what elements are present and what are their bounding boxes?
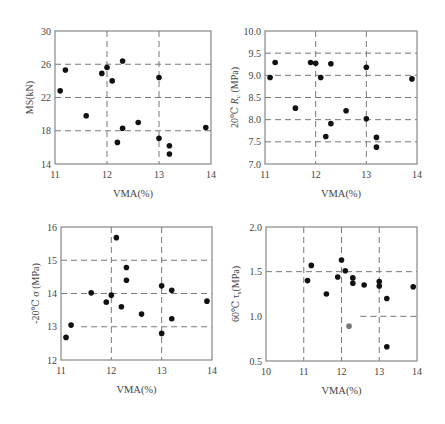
data-point (167, 143, 173, 149)
y-tick-labels: 0.51.01.52.0 (250, 222, 263, 367)
y-tick-label: 8.0 (249, 114, 262, 125)
data-point (135, 120, 141, 126)
data-points (63, 235, 210, 340)
x-tick-label: 14 (207, 365, 217, 376)
data-point (293, 105, 299, 111)
x-tick-label: 12 (106, 365, 116, 376)
y-tick-label: 10.0 (244, 26, 262, 37)
data-point (318, 75, 324, 81)
x-axis-label: VMA(%) (321, 188, 362, 200)
data-point (99, 71, 105, 77)
data-point (104, 65, 110, 71)
x-tick-labels: 1011121314 (261, 366, 422, 377)
x-tick-label: 14 (412, 366, 422, 377)
y-tick-labels: 1213141516 (47, 222, 57, 366)
y-tick-label: 14 (41, 159, 51, 170)
y-axis-label: 60℃ τs(MPa) (230, 266, 243, 322)
x-tick-label: 11 (50, 169, 60, 180)
x-tick-label: 11 (260, 169, 270, 180)
data-point (159, 331, 165, 337)
y-tick-label: 1.5 (250, 266, 263, 277)
x-axis-label: VMA(%) (116, 384, 157, 396)
data-point (305, 278, 311, 284)
data-point (364, 65, 370, 71)
y-tick-label: 16 (47, 222, 57, 233)
data-point (114, 235, 120, 241)
data-point (409, 76, 415, 82)
data-point (309, 263, 315, 269)
y-axis-label: MS(kN) (24, 81, 36, 114)
data-point (350, 280, 356, 286)
data-point (384, 344, 390, 350)
y-axis-label: 20℃ Rc (MPa) (229, 67, 242, 128)
data-points (267, 60, 414, 150)
data-point (120, 125, 126, 131)
x-axis-label: VMA(%) (113, 188, 154, 200)
data-point (109, 292, 115, 298)
y-tick-label: 26 (41, 59, 51, 70)
data-point (115, 140, 121, 146)
x-tick-label: 11 (56, 365, 66, 376)
data-point (124, 265, 130, 271)
data-point (308, 60, 314, 66)
x-tick-labels: 11121314 (260, 169, 422, 180)
y-tick-labels: 1418222630 (41, 26, 51, 170)
data-point (410, 284, 416, 290)
data-point (374, 135, 380, 141)
data-point (156, 75, 162, 81)
x-tick-label: 13 (154, 169, 164, 180)
data-points (57, 58, 208, 157)
x-tick-label: 12 (102, 169, 112, 180)
data-point (313, 61, 319, 67)
data-point (272, 60, 278, 66)
data-point (374, 144, 380, 150)
chart-sigma: 11121314 1213141516 VMA(%) -20℃ σ (MPa) (30, 222, 217, 397)
y-tick-label: 22 (41, 92, 51, 103)
data-point (324, 291, 330, 297)
data-point (139, 311, 145, 317)
data-point (343, 108, 349, 114)
data-point (63, 335, 69, 341)
data-point (384, 296, 390, 302)
data-point (203, 125, 209, 131)
data-point (335, 274, 341, 280)
data-point (120, 58, 126, 64)
data-points (305, 257, 416, 349)
data-point (57, 88, 63, 94)
figure-canvas: 11121314 1418222630 VMA(%) MS(kN) 111213… (0, 0, 445, 424)
chart-tau: 1011121314 0.51.01.52.0 VMA(%) 60℃ τs(MP… (230, 222, 422, 398)
y-axis-label: -20℃ σ (MPa) (30, 263, 42, 323)
x-tick-label: 14 (206, 169, 216, 180)
data-point (119, 304, 125, 310)
data-point (339, 257, 345, 263)
y-tick-label: 7.5 (249, 136, 262, 147)
data-point (267, 75, 273, 81)
x-tick-label: 10 (261, 366, 271, 377)
x-tick-labels: 11121314 (56, 365, 217, 376)
data-point (323, 134, 329, 140)
data-point (376, 283, 382, 289)
y-tick-label: 13 (47, 321, 57, 332)
chart-rc: 11121314 7.07.58.08.59.09.510.0 VMA(%) 2… (229, 26, 422, 201)
x-tick-label: 14 (412, 169, 422, 180)
data-point (167, 151, 173, 157)
data-point (342, 268, 348, 274)
y-tick-label: 14 (47, 288, 57, 299)
grid-lines (266, 227, 417, 361)
data-point (169, 316, 175, 322)
data-point (328, 61, 334, 67)
y-tick-label: 0.5 (250, 356, 263, 367)
x-axis-label: VMA(%) (321, 385, 362, 397)
data-point (346, 323, 352, 329)
data-point (104, 299, 110, 305)
x-tick-label: 13 (157, 365, 167, 376)
data-point (156, 135, 162, 141)
data-point (68, 322, 74, 328)
y-tick-label: 7.0 (249, 159, 262, 170)
data-point (109, 78, 115, 84)
y-tick-label: 1.0 (250, 311, 263, 322)
y-tick-labels: 7.07.58.08.59.09.510.0 (244, 26, 262, 170)
y-tick-label: 15 (47, 255, 57, 266)
y-tick-label: 12 (47, 355, 57, 366)
data-point (159, 283, 165, 289)
